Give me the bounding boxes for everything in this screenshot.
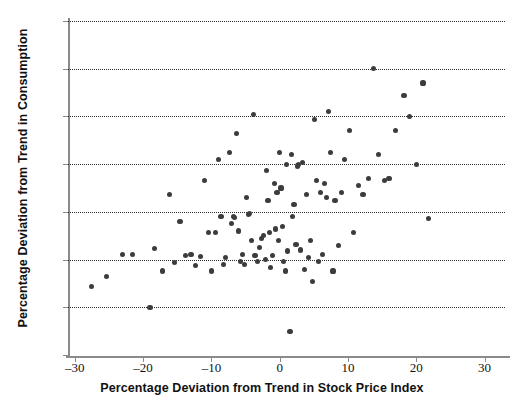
data-point	[420, 80, 425, 85]
data-point	[316, 259, 321, 264]
x-tick-label: 30	[478, 360, 491, 376]
gridline	[68, 116, 505, 117]
data-point	[393, 128, 398, 133]
data-point	[320, 252, 325, 257]
data-point	[283, 268, 288, 273]
scatter-plot-figure: –1.5–1–0.500.511.52 –30–20–100102030 Per…	[0, 0, 524, 410]
y-tick-mark	[63, 116, 68, 117]
data-point	[371, 66, 376, 71]
data-point	[407, 114, 412, 119]
data-point	[261, 233, 266, 238]
data-point	[386, 176, 391, 181]
data-point	[264, 168, 269, 173]
data-point	[232, 215, 237, 220]
data-point	[274, 190, 279, 195]
data-point	[273, 226, 278, 231]
x-tick-label: 20	[410, 360, 423, 376]
data-point	[314, 178, 319, 183]
x-tick-label: 0	[276, 360, 283, 376]
data-point	[234, 131, 239, 136]
data-point	[188, 252, 193, 257]
data-point	[104, 274, 109, 279]
data-point	[263, 257, 268, 262]
data-point	[277, 150, 282, 155]
data-point	[293, 242, 298, 247]
data-point	[328, 150, 333, 155]
data-point	[289, 152, 294, 157]
data-point	[356, 183, 361, 188]
data-point	[227, 150, 232, 155]
data-point	[300, 160, 305, 165]
data-point	[221, 262, 226, 267]
data-point	[342, 157, 347, 162]
data-point	[360, 192, 365, 197]
gridline	[68, 212, 505, 213]
data-point	[130, 252, 135, 257]
data-point	[218, 214, 223, 219]
data-point	[290, 214, 295, 219]
data-point	[339, 190, 344, 195]
data-point	[270, 253, 275, 258]
data-point	[376, 152, 381, 157]
data-point	[287, 329, 292, 334]
data-point	[216, 157, 221, 162]
x-tick-label: –30	[65, 360, 85, 376]
data-point	[147, 305, 152, 310]
data-point	[89, 284, 94, 289]
data-point	[326, 109, 331, 114]
x-tick-label: –20	[133, 360, 153, 376]
data-point	[267, 230, 272, 235]
data-point	[272, 181, 277, 186]
data-point	[167, 192, 172, 197]
y-tick-mark	[63, 307, 68, 308]
data-point	[206, 230, 211, 235]
data-point	[152, 246, 157, 251]
gridline	[68, 307, 505, 308]
x-tick-label: 10	[341, 360, 354, 376]
data-point	[302, 267, 307, 272]
data-point	[336, 243, 341, 248]
data-point	[280, 224, 285, 229]
data-point	[198, 254, 203, 259]
gridline	[68, 21, 505, 22]
y-axis-title: Percentage Deviation from Trend in Consu…	[16, 18, 30, 338]
data-point	[414, 162, 419, 167]
data-point	[247, 211, 252, 216]
plot-area: –1.5–1–0.500.511.52 –30–20–100102030	[68, 21, 505, 355]
data-point	[265, 198, 270, 203]
data-point	[160, 268, 165, 273]
data-point	[284, 162, 289, 167]
data-point	[281, 259, 286, 264]
x-tick-label: –10	[202, 360, 222, 376]
data-point	[312, 117, 317, 122]
data-point	[242, 262, 247, 267]
x-axis-title: Percentage Deviation from Trend in Stock…	[0, 381, 524, 395]
data-point	[240, 252, 245, 257]
data-point	[236, 228, 241, 233]
data-point	[183, 253, 188, 258]
data-point	[229, 221, 234, 226]
data-point	[202, 178, 207, 183]
data-point	[401, 93, 406, 98]
data-point	[244, 195, 249, 200]
data-point	[252, 253, 257, 258]
data-point	[285, 248, 290, 253]
data-point	[177, 219, 182, 224]
data-point	[322, 181, 327, 186]
data-point	[426, 216, 431, 221]
data-point	[324, 195, 329, 200]
data-point	[291, 202, 296, 207]
data-point	[249, 238, 254, 243]
gridline	[68, 69, 505, 70]
y-tick-mark	[63, 164, 68, 165]
data-point	[304, 192, 309, 197]
y-tick-mark	[63, 21, 68, 22]
gridline	[68, 260, 505, 261]
data-point	[332, 198, 337, 203]
data-point	[257, 245, 262, 250]
data-point	[330, 268, 335, 273]
data-point	[172, 260, 177, 265]
data-point	[209, 268, 214, 273]
data-point	[213, 230, 218, 235]
data-point	[255, 259, 260, 264]
